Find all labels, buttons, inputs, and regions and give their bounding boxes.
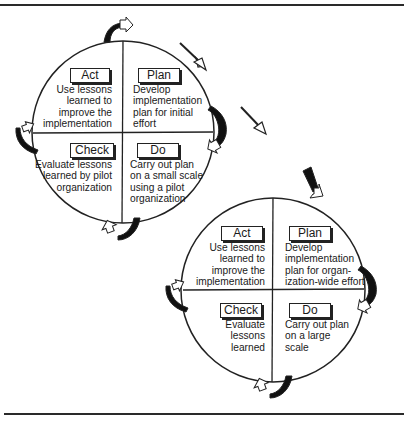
cycle1-do-label: Do [137,143,179,158]
cycle2-circle [181,198,365,382]
diagonal-arrow-icon [241,107,266,134]
cycle2-do-label: Do [289,303,331,318]
cycle1-check-text: Evaluate lessons learned by pilot organi… [35,159,112,193]
cycle1-do-text: Carry out plan on a small scale using a … [130,159,203,205]
cycle2-do-text: Carry out plan on a large scale [285,319,349,353]
cycle1-act-label: Act [70,68,110,83]
diagram-art [0,0,406,423]
cycle1-plan-text: Develop implementation plan for initial … [133,84,202,130]
cycle2-act-label: Act [221,226,263,241]
cycle2-plan-label: Plan [289,226,331,241]
cycle2-check-label: Check [220,303,262,318]
cycle1-check-label: Check [70,143,114,158]
cycle1-act-text: Use lessons learned to improve the imple… [43,84,112,130]
cycle2-plan-text: Develop implementation plan for organ- i… [285,242,365,288]
cycle2-act-text: Use lessons learned to improve the imple… [196,242,265,288]
cycle1-plan-label: Plan [138,68,180,83]
cycle2-check-text: Evaluate lessons learned [225,319,265,353]
